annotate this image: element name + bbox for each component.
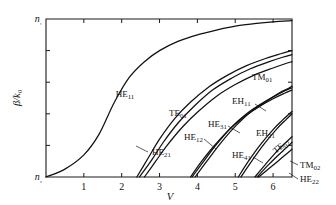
x-tick-label: 5 (233, 181, 238, 192)
mode-dispersion-chart: 123456 HE11TE01HE21HE12HE31TM01EH11EH21H… (0, 0, 336, 205)
x-tick-label: 1 (81, 181, 86, 192)
chart-background (0, 0, 336, 205)
chart-canvas: 123456 HE11TE01HE21HE12HE31TM01EH11EH21H… (0, 0, 336, 205)
x-tick-label: 4 (195, 181, 200, 192)
x-tick-label: 2 (119, 181, 124, 192)
x-tick-label: 6 (271, 181, 276, 192)
x-tick-label: 3 (157, 181, 162, 192)
